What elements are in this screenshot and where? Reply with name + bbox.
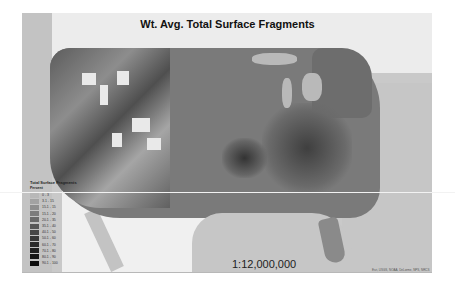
legend-subtitle: Percent [30,186,78,190]
legend-item: 90.1 - 100 [30,260,78,266]
legend-label: 90.1 - 100 [42,261,58,265]
legend-swatch [30,242,39,247]
legend-swatch [30,248,39,253]
legend-label: 15.1 - 15 [42,205,56,209]
ozark-region [222,138,267,178]
legend-swatch [30,230,39,235]
low-fragment-patch [112,133,122,147]
legend-label: 80.1 - 90 [42,255,56,259]
legend-swatch [30,199,39,204]
low-fragment-patch [132,118,150,132]
legend-label: 50.1 - 60 [42,236,56,240]
legend-swatch [30,224,39,229]
legend-label: 3.1 - 15 [42,199,54,203]
legend-swatch [30,193,39,198]
legend-swatch [30,205,39,210]
scale-label: 1:12,000,000 [232,258,296,270]
legend-title: Total Surface Fragments [30,180,78,185]
low-fragment-patch [82,73,96,85]
legend-label: 0 - 3 [42,193,49,197]
low-fragment-patch [100,85,108,105]
legend-swatch [30,254,39,259]
legend-label: 20.1 - 35 [42,218,56,222]
low-fragment-patch [147,138,161,150]
legend-label: 60.1 - 70 [42,243,56,247]
legend-label: 40.1 - 50 [42,230,56,234]
low-fragment-patch [117,71,129,85]
appalachian-region [262,103,352,193]
lake-michigan [282,78,292,108]
legend-label: 15.1 - 20 [42,212,56,216]
legend-swatch [30,236,39,241]
credits-text: Esri, USGS, NOAA, DeLorme, NPS, NRCS [372,268,430,272]
map-title: Wt. Avg. Total Surface Fragments [0,18,455,30]
lake-superior [252,53,297,65]
lake-huron [302,73,322,101]
legend-swatch [30,217,39,222]
legend-swatch [30,211,39,216]
legend-swatch [30,261,39,266]
map-frame[interactable] [22,13,432,273]
legend: Total Surface Fragments Percent 0 - 33.1… [30,180,78,266]
legend-label: 70.1 - 80 [42,249,56,253]
legend-label: 35.1 - 40 [42,224,56,228]
